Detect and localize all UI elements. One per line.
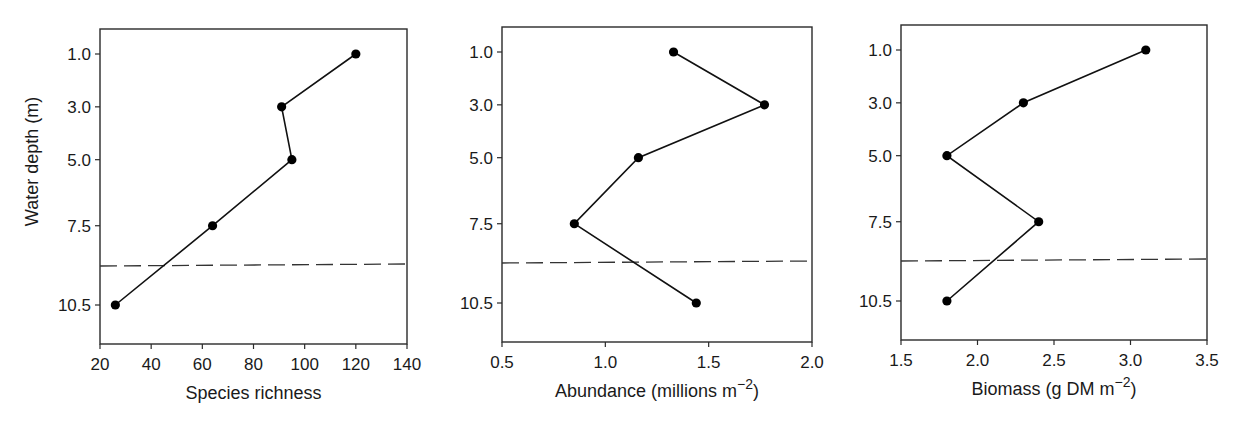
plot-frame xyxy=(502,27,812,342)
biomass-panel: 1.52.02.53.03.51.03.05.07.510.5Biomass (… xyxy=(859,25,1219,399)
y-tick-label: 10.5 xyxy=(58,296,91,315)
x-axis-label: Species richness xyxy=(185,383,321,403)
data-point xyxy=(1141,45,1150,54)
data-point xyxy=(1019,98,1028,107)
x-tick-label: 3.0 xyxy=(1119,351,1143,370)
x-tick-label: 140 xyxy=(393,355,421,374)
x-tick-label: 1.0 xyxy=(594,353,618,372)
x-tick-label: 20 xyxy=(91,355,110,374)
abundance-panel: 0.51.01.52.01.03.05.07.510.5Abundance (m… xyxy=(460,27,824,401)
plot-frame xyxy=(901,25,1207,340)
data-series-line xyxy=(947,50,1146,301)
x-tick-label: 0.5 xyxy=(490,353,514,372)
x-tick-label: 2.5 xyxy=(1042,351,1066,370)
x-tick-label: 1.5 xyxy=(889,351,913,370)
data-point xyxy=(942,296,951,305)
y-tick-label: 7.5 xyxy=(67,217,91,236)
x-tick-label: 120 xyxy=(342,355,370,374)
data-point xyxy=(351,49,360,58)
x-tick-label: 60 xyxy=(193,355,212,374)
reference-dashed-line xyxy=(901,259,1207,261)
reference-dashed-line xyxy=(100,264,407,266)
y-tick-label: 5.0 xyxy=(868,147,892,166)
y-tick-label: 10.5 xyxy=(859,292,892,311)
data-point xyxy=(570,219,579,228)
figure: 204060801001201401.03.05.07.510.5Species… xyxy=(0,0,1239,425)
y-tick-label: 7.5 xyxy=(868,213,892,232)
y-tick-label: 5.0 xyxy=(67,151,91,170)
x-axis-label: Biomass (g DM m−2) xyxy=(972,374,1137,399)
reference-dashed-line xyxy=(502,261,812,263)
data-point xyxy=(942,151,951,160)
data-point xyxy=(208,221,217,230)
data-point xyxy=(287,155,296,164)
data-point xyxy=(111,300,120,309)
y-tick-label: 3.0 xyxy=(67,98,91,117)
y-tick-label: 5.0 xyxy=(469,149,493,168)
y-tick-label: 7.5 xyxy=(469,215,493,234)
x-axis-label: Abundance (millions m−2) xyxy=(555,376,759,401)
plot-frame xyxy=(100,29,407,344)
data-series-line xyxy=(574,52,764,303)
x-tick-label: 2.0 xyxy=(966,351,990,370)
y-tick-label: 3.0 xyxy=(868,94,892,113)
y-tick-label: 3.0 xyxy=(469,96,493,115)
data-point xyxy=(634,153,643,162)
x-tick-label: 2.0 xyxy=(800,353,824,372)
x-tick-label: 80 xyxy=(244,355,263,374)
y-tick-label: 1.0 xyxy=(469,43,493,62)
x-tick-label: 40 xyxy=(142,355,161,374)
x-tick-label: 100 xyxy=(290,355,318,374)
data-point xyxy=(692,298,701,307)
y-tick-label: 10.5 xyxy=(460,294,493,313)
data-series-line xyxy=(115,54,355,305)
data-point xyxy=(669,47,678,56)
species-richness-panel: 204060801001201401.03.05.07.510.5Species… xyxy=(22,29,421,403)
data-point xyxy=(277,102,286,111)
data-point xyxy=(1034,217,1043,226)
data-point xyxy=(760,100,769,109)
x-tick-label: 1.5 xyxy=(697,353,721,372)
y-tick-label: 1.0 xyxy=(67,45,91,64)
y-tick-label: 1.0 xyxy=(868,41,892,60)
x-tick-label: 3.5 xyxy=(1195,351,1219,370)
y-axis-label: Water depth (m) xyxy=(22,97,42,226)
